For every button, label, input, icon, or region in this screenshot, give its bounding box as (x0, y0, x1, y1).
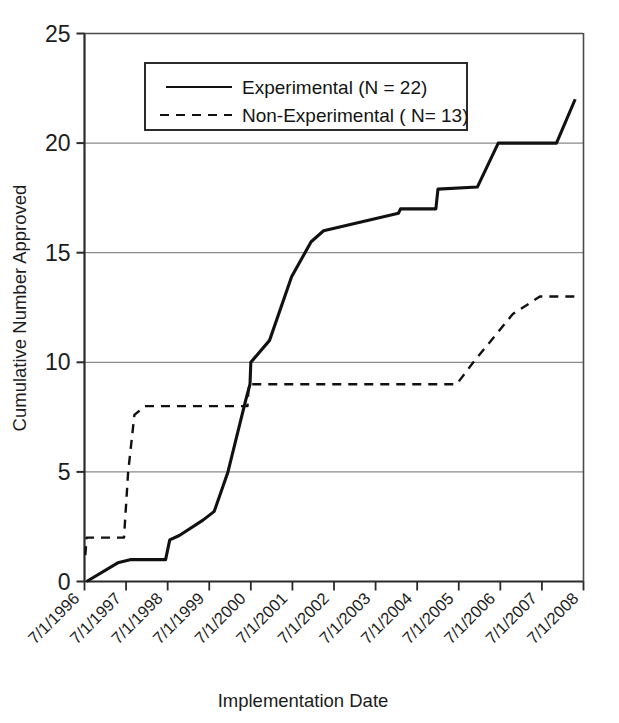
chart-svg: 0510152025 7/1/19967/1/19977/1/19987/1/1… (0, 0, 619, 723)
legend: Experimental (N = 22) Non-Experimental (… (145, 63, 469, 130)
y-tick-label-10: 10 (45, 349, 71, 375)
series-paths (85, 99, 575, 581)
y-tick-label-5: 5 (58, 459, 71, 485)
series-line-non-experimental (85, 297, 575, 556)
y-axis: 0510152025 (45, 21, 85, 595)
y-tick-label-15: 15 (45, 240, 71, 266)
legend-label-experimental: Experimental (N = 22) (242, 77, 427, 98)
x-axis-title: Implementation Date (218, 690, 389, 711)
y-tick-label-25: 25 (45, 21, 71, 47)
x-axis-ticks (85, 582, 584, 591)
y-axis-title: Cumulative Number Approved (9, 185, 30, 432)
legend-label-non-experimental: Non-Experimental ( N= 13) (242, 105, 469, 126)
series-line-experimental (87, 99, 576, 581)
cumulative-approvals-chart: 0510152025 7/1/19967/1/19977/1/19987/1/1… (0, 0, 619, 723)
y-tick-label-20: 20 (45, 130, 71, 156)
x-axis-labels: 7/1/19967/1/19977/1/19987/1/19997/1/2000… (24, 589, 581, 647)
